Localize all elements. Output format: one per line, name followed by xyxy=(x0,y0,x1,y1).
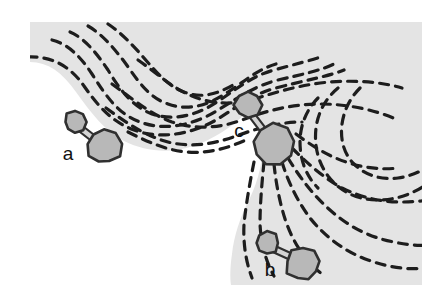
marker-b-small-lobe xyxy=(257,231,278,253)
marker-a-large-lobe xyxy=(88,129,123,161)
label-c: c xyxy=(234,120,244,141)
label-b: b xyxy=(265,259,276,280)
diagram-svg: abc xyxy=(0,0,447,306)
marker-b-large-lobe xyxy=(287,248,320,279)
marker-a-small-lobe xyxy=(66,111,87,133)
label-a: a xyxy=(63,143,74,164)
diagram-canvas: abc xyxy=(0,0,447,306)
